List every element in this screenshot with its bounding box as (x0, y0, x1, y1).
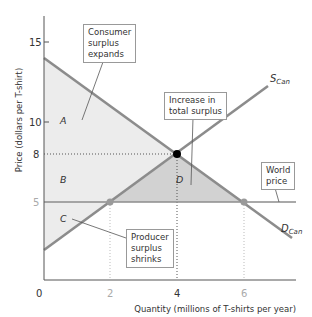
y-tick-label-8: 8 (33, 149, 39, 160)
chart-canvas: 15 10 8 5 0 2 4 6 Price (dollars per T-s… (0, 0, 312, 317)
supply-curve-label: SCan (270, 73, 290, 86)
x-tick-label-2: 2 (107, 288, 113, 299)
region-label-b: B (60, 174, 67, 185)
region-label-a: A (59, 115, 67, 126)
consumer-surplus-note: Consumer surplus expands (83, 24, 136, 63)
total-surplus-note: Increase in total surplus (164, 92, 227, 120)
producer-note-pointer (72, 219, 126, 238)
world-price-note: World price (261, 162, 295, 190)
x-axis-title: Quantity (millions of T-shirts per year) (134, 304, 296, 314)
y-tick-label-15: 15 (29, 37, 42, 48)
x-tick-label-6: 6 (241, 288, 247, 299)
world-demand-point (241, 199, 248, 206)
x-tick-label-0: 0 (36, 288, 42, 299)
y-tick-label-10: 10 (29, 117, 42, 128)
world-supply-point (107, 199, 114, 206)
region-label-d: D (176, 174, 183, 185)
y-axis-title: Price (dollars per T-shirt) (14, 68, 24, 173)
y-tick-label-5: 5 (33, 197, 39, 208)
region-label-c: C (60, 213, 67, 224)
equilibrium-point (173, 150, 181, 158)
producer-surplus-note: Producer surplus shrinks (126, 229, 174, 268)
demand-curve-label: DCan (281, 223, 302, 236)
x-tick-label-4: 4 (174, 288, 180, 299)
world-note-pointer (275, 188, 279, 202)
